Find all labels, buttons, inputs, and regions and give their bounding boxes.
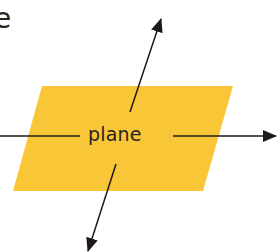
partial-heading-text: e xyxy=(0,4,11,34)
plane-label: plane xyxy=(88,123,142,145)
plane-diagram: e plane xyxy=(0,0,278,252)
